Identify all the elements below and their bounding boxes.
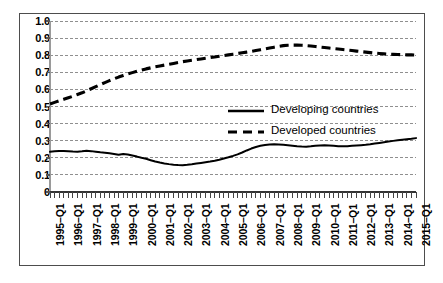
series-line-1 [50, 138, 416, 165]
chart-plot-svg [20, 14, 426, 267]
plot-area: 1.00.90.80.70.60.50.40.30.20.10 1995–Q11… [20, 14, 424, 265]
legend-item-label: Developed countries [271, 124, 376, 136]
legend-item: Developing countries [228, 98, 414, 119]
chart-figure: 1.00.90.80.70.60.50.40.30.20.10 1995–Q11… [19, 13, 425, 266]
legend-solid-line-icon [228, 103, 264, 115]
legend-dashed-line-icon [228, 124, 264, 136]
series-line-2 [50, 45, 416, 104]
legend-item: Developed countries [228, 119, 414, 140]
chart-legend: Developing countriesDeveloped countries [228, 98, 414, 140]
legend-item-label: Developing countries [271, 103, 378, 115]
